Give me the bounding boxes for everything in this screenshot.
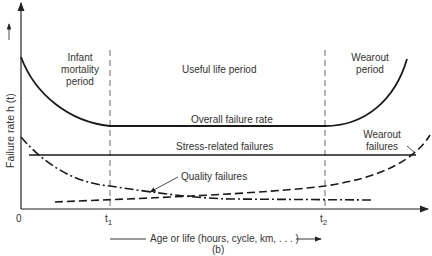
wearout-period-line-1: Wearout xyxy=(345,52,395,64)
wearout-period-line-2: period xyxy=(345,64,395,76)
y-axis-label: Failure rate h (t) xyxy=(4,93,16,168)
useful-life-label: Useful life period xyxy=(182,64,256,76)
t1-sub: 1 xyxy=(108,218,112,227)
quality-leader-line xyxy=(150,177,178,192)
stress-failure-label: Stress-related failures xyxy=(176,141,273,153)
infant-line-1: Infant xyxy=(50,52,110,64)
wearout-failure-line-1: Wearout xyxy=(357,129,407,141)
wearout-failure-label: Wearout failures xyxy=(357,129,407,153)
bathtub-diagram xyxy=(0,0,432,256)
origin-tick: 0 xyxy=(16,213,22,225)
infant-line-2: mortality xyxy=(50,64,110,76)
x-axis-label: Age or life (hours, cycle, km, . . . ) xyxy=(150,233,299,245)
t2-tick: t2 xyxy=(320,213,327,229)
wearout-leader-line xyxy=(407,146,414,152)
figure-caption: (b) xyxy=(212,244,224,256)
quality-failure-label: Quality failures xyxy=(181,171,247,183)
overall-failure-label: Overall failure rate xyxy=(191,114,273,126)
wearout-failure-line-2: failures xyxy=(357,141,407,153)
wearout-period-label: Wearout period xyxy=(345,52,395,76)
t1-tick: t1 xyxy=(105,213,112,229)
t2-sub: 2 xyxy=(323,218,327,227)
infant-line-3: period xyxy=(50,76,110,88)
infant-mortality-label: Infant mortality period xyxy=(50,52,110,88)
